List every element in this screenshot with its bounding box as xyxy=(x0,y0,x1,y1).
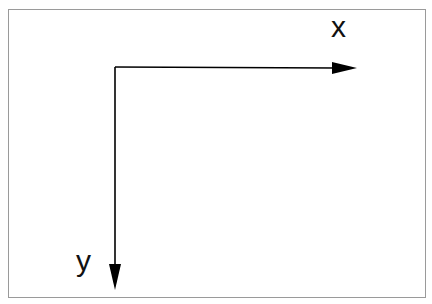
axes-diagram xyxy=(0,0,432,304)
y-axis-arrow xyxy=(109,67,121,290)
x-axis-arrow xyxy=(115,62,357,74)
x-axis-label: x xyxy=(331,12,346,42)
y-axis-label: y xyxy=(76,246,91,276)
